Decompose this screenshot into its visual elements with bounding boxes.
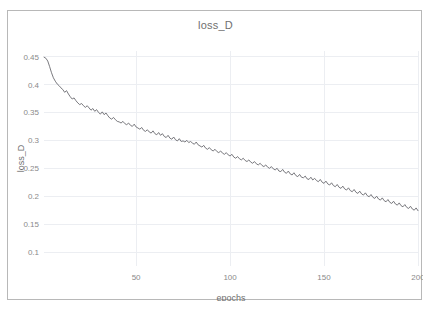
series-line xyxy=(44,57,418,211)
y-axis-title: loss_D xyxy=(16,144,26,172)
data-series-group xyxy=(44,57,418,211)
y-tick-label: 0.15 xyxy=(23,220,39,229)
y-tick-label: 0.35 xyxy=(23,108,39,117)
y-tick-label: 0.3 xyxy=(28,136,40,145)
x-tick-label: 150 xyxy=(317,273,331,282)
horizontal-gridlines xyxy=(44,57,418,252)
x-tick-label: 100 xyxy=(223,273,237,282)
line-chart-plot: 0.10.150.20.250.30.350.40.45 50100150200… xyxy=(8,11,423,301)
y-tick-label: 0.2 xyxy=(28,192,40,201)
vertical-gridlines xyxy=(136,51,418,266)
x-tick-label: 50 xyxy=(132,273,141,282)
x-tick-label: 200 xyxy=(411,273,423,282)
y-tick-label: 0.1 xyxy=(28,248,40,257)
x-axis-title: epochs xyxy=(216,293,246,301)
x-axis-tick-labels: 50100150200 xyxy=(132,273,423,282)
chart-container: loss_D 0.10.150.20.250.30.350.40.45 5010… xyxy=(7,10,422,300)
y-tick-label: 0.45 xyxy=(23,53,39,62)
y-tick-label: 0.4 xyxy=(28,81,40,90)
